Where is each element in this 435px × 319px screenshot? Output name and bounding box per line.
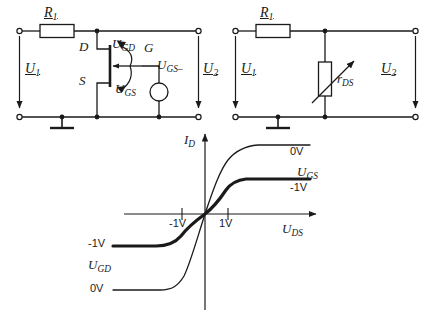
label-drain-terminal: D bbox=[79, 40, 88, 53]
label-u2-right: U2 bbox=[381, 62, 396, 78]
terminal-left-top-out bbox=[196, 28, 201, 33]
label-ugs-source: UGS– bbox=[157, 58, 182, 74]
label-rds: rDS bbox=[337, 72, 353, 88]
label-gate-terminal: G bbox=[144, 41, 153, 54]
node-dot-drain bbox=[95, 29, 100, 34]
chart-curves bbox=[113, 145, 310, 290]
terminal-right-bottom-in bbox=[233, 114, 238, 119]
terminal-left-top-in bbox=[17, 28, 22, 33]
label-r1-right: R1 bbox=[260, 6, 274, 22]
label-r1-left: R1 bbox=[44, 6, 58, 22]
label-u1-left: U1 bbox=[25, 62, 40, 78]
curve-ugs-0v bbox=[113, 145, 310, 290]
terminal-right-bottom-out bbox=[413, 114, 418, 119]
label-ugs-arc: UGS bbox=[115, 82, 136, 98]
circuit-left bbox=[17, 25, 201, 129]
x-tick-label-minus1v: -1V bbox=[169, 218, 186, 229]
terminal-right-top-out bbox=[413, 28, 418, 33]
terminal-left-bottom-in bbox=[17, 114, 22, 119]
axis-label-uds: UDS bbox=[282, 222, 303, 238]
figure-canvas bbox=[0, 0, 435, 319]
legend-label-ugd: UGD bbox=[88, 258, 111, 274]
node-dot-rds-top bbox=[323, 29, 328, 34]
curve-label-right-minus1v: -1V bbox=[290, 182, 307, 193]
figure-root: R1 U1 U2 D S G UGD UGS UGS– R1 U1 U2 rDS… bbox=[0, 0, 435, 319]
curve-label-right-0v: 0V bbox=[290, 146, 303, 157]
resistor-r1-right bbox=[256, 25, 290, 38]
x-tick-label-plus1v: 1V bbox=[219, 218, 232, 229]
curve-label-left-0v: 0V bbox=[90, 283, 103, 294]
label-source-terminal: S bbox=[79, 74, 86, 87]
axis-label-id: ID bbox=[184, 133, 195, 149]
node-dot-rds-bottom bbox=[323, 115, 328, 120]
node-dot-ugs-rail bbox=[157, 115, 162, 120]
terminal-left-bottom-out bbox=[196, 114, 201, 119]
label-u1-right: U1 bbox=[241, 62, 256, 78]
label-u2-left: U2 bbox=[203, 62, 218, 78]
curve-label-left-minus1v: -1V bbox=[88, 238, 105, 249]
resistor-r1-left bbox=[40, 25, 74, 38]
jfet-source-lead bbox=[97, 83, 110, 117]
resistor-rds bbox=[319, 62, 332, 96]
node-dot-ground-right bbox=[276, 115, 281, 120]
curve-ugs-minus1v bbox=[113, 179, 310, 246]
jfet-drain-lead bbox=[97, 31, 110, 49]
node-dot-source bbox=[95, 115, 100, 120]
legend-label-ugs: UGS bbox=[297, 165, 318, 181]
terminal-right-top-in bbox=[233, 28, 238, 33]
voltage-source-ugs bbox=[150, 83, 168, 101]
node-dot-ground-left bbox=[60, 115, 65, 120]
label-ugd-arc: UGD bbox=[112, 37, 135, 53]
